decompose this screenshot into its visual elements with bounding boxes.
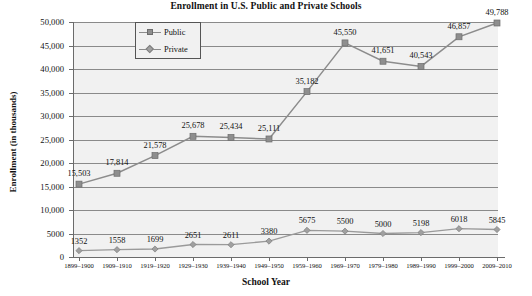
data-point-public[interactable] <box>342 40 348 46</box>
data-point-public[interactable] <box>266 136 272 142</box>
data-label-public: 15,503 <box>51 169 107 178</box>
data-point-private[interactable] <box>304 227 310 233</box>
data-label-private: 5845 <box>469 216 525 225</box>
data-point-private[interactable] <box>152 246 158 252</box>
data-point-private[interactable] <box>114 247 120 253</box>
legend-label-private: Private <box>164 45 188 54</box>
legend-item-public[interactable]: Public <box>139 24 185 40</box>
data-label-public: 40,543 <box>393 51 449 60</box>
data-point-private[interactable] <box>228 242 234 248</box>
data-point-public[interactable] <box>152 153 158 159</box>
data-point-public[interactable] <box>456 34 462 40</box>
data-point-private[interactable] <box>266 238 272 244</box>
legend: Public Private <box>135 22 201 59</box>
data-label-private: 3380 <box>241 227 297 236</box>
legend-label-public: Public <box>164 28 185 37</box>
data-point-private[interactable] <box>418 229 424 235</box>
legend-item-private[interactable]: Private <box>139 41 188 57</box>
data-point-public[interactable] <box>228 134 234 140</box>
series-lines <box>0 0 532 296</box>
data-point-public[interactable] <box>76 181 82 187</box>
data-point-private[interactable] <box>380 230 386 236</box>
data-label-public: 46,857 <box>431 22 487 31</box>
data-point-public[interactable] <box>494 20 500 26</box>
data-point-public[interactable] <box>190 133 196 139</box>
data-point-private[interactable] <box>76 248 82 254</box>
data-label-public: 25,111 <box>241 124 297 133</box>
diamond-marker-icon <box>139 44 161 54</box>
x-axis-title: School Year <box>0 277 532 287</box>
data-point-private[interactable] <box>342 228 348 234</box>
data-label-public: 49,788 <box>469 8 525 17</box>
data-point-public[interactable] <box>304 89 310 95</box>
data-point-private[interactable] <box>190 241 196 247</box>
data-point-public[interactable] <box>380 58 386 64</box>
data-point-public[interactable] <box>114 170 120 176</box>
square-marker-icon <box>139 27 161 37</box>
data-point-private[interactable] <box>494 226 500 232</box>
data-label-public: 21,578 <box>127 141 183 150</box>
data-label-public: 17,814 <box>89 158 145 167</box>
data-point-private[interactable] <box>456 226 462 232</box>
data-point-public[interactable] <box>418 63 424 69</box>
enrollment-line-chart: Enrollment in U.S. Public and Private Sc… <box>0 0 532 296</box>
data-label-public: 45,550 <box>317 28 373 37</box>
data-label-public: 35,182 <box>279 77 335 86</box>
